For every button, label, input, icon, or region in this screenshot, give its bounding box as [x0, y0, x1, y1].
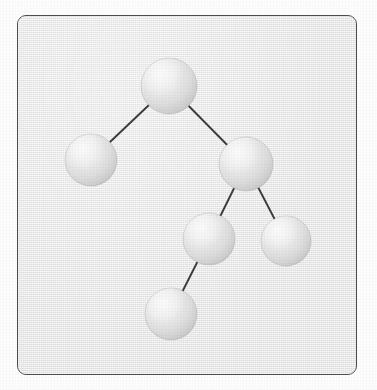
node-leaf-bottom[interactable] [145, 288, 197, 340]
node-left-child[interactable] [65, 134, 117, 186]
node-root[interactable] [141, 58, 197, 114]
node-inner-left[interactable] [183, 213, 235, 265]
edges-layer [91, 86, 286, 314]
node-inner-right[interactable] [261, 216, 311, 266]
binary-tree-canvas [18, 16, 357, 375]
figure-root [0, 0, 377, 390]
figure-frame [17, 15, 357, 375]
nodes-layer [65, 58, 311, 340]
node-right-child[interactable] [219, 137, 273, 191]
